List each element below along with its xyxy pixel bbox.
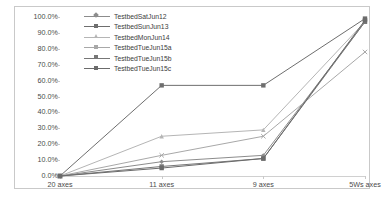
legend-item-TestbedMonJun14: TestbedMonJun14 bbox=[84, 32, 204, 43]
y-axis-tick-label: 50.0% bbox=[12, 93, 58, 101]
legend-swatch-icon bbox=[84, 32, 110, 42]
legend-item-label: TestbedSunJun13 bbox=[110, 23, 168, 30]
x-axis-tick-label: 5Ws axes bbox=[349, 180, 381, 189]
legend-marker bbox=[94, 55, 98, 59]
y-axis-tick-label: 30.0% bbox=[12, 124, 58, 132]
x-axis-tick-mark bbox=[162, 176, 163, 179]
legend-marker bbox=[94, 66, 98, 70]
legend-marker bbox=[93, 12, 99, 18]
series-data-point bbox=[58, 174, 62, 178]
x-axis-line bbox=[60, 176, 366, 177]
legend-item-label: TestbedMonJun14 bbox=[110, 34, 170, 41]
legend-item-TestbedTueJun15b: TestbedTueJun15b bbox=[84, 53, 204, 64]
legend-marker bbox=[94, 24, 98, 28]
legend-item-TestbedSunJun13: TestbedSunJun13 bbox=[84, 22, 204, 33]
legend-item-label: TestbedTueJun15b bbox=[110, 55, 172, 62]
y-axis-tick-label: 90.0% bbox=[12, 29, 58, 37]
series-data-point bbox=[261, 83, 265, 87]
legend-item-label: TestbedSatJun12 bbox=[110, 13, 167, 20]
x-axis-tick-mark bbox=[365, 176, 366, 179]
y-axis-tick-label: 70.0% bbox=[12, 61, 58, 69]
y-axis-tick-label: 80.0% bbox=[12, 45, 58, 53]
legend-swatch-icon bbox=[84, 43, 110, 53]
chart-container: 100.0%90.0%80.0%70.0%60.0%50.0%40.0%30.0… bbox=[0, 0, 382, 199]
series-data-point bbox=[363, 18, 367, 22]
legend-marker bbox=[94, 34, 98, 38]
x-axis-tick-label: 9 axes bbox=[253, 180, 274, 189]
legend-item-label: TestbedTueJun15a bbox=[110, 44, 172, 51]
y-axis-tick-label: 60.0% bbox=[12, 77, 58, 85]
y-axis-tick-label: 100.0% bbox=[12, 13, 58, 21]
y-axis-tick-label: 20.0% bbox=[12, 140, 58, 148]
legend-item-TestbedSatJun12: TestbedSatJun12 bbox=[84, 11, 204, 22]
y-axis-tick-label: 10.0% bbox=[12, 156, 58, 164]
legend-item-label: TestbedTueJun15c bbox=[110, 65, 171, 72]
y-axis-tick-labels: 100.0%90.0%80.0%70.0%60.0%50.0%40.0%30.0… bbox=[11, 0, 58, 199]
series-data-point bbox=[159, 166, 163, 170]
chart-legend: TestbedSatJun12TestbedSunJun13TestbedMon… bbox=[84, 11, 204, 74]
legend-swatch-icon bbox=[84, 64, 110, 74]
legend-swatch-icon bbox=[84, 53, 110, 63]
series-data-point bbox=[261, 156, 265, 160]
legend-marker bbox=[94, 45, 98, 49]
x-axis-tick-mark bbox=[263, 176, 264, 179]
legend-swatch-icon bbox=[84, 11, 110, 21]
legend-swatch-icon bbox=[84, 22, 110, 32]
y-axis-tick-label: 0.0% bbox=[12, 172, 58, 180]
x-axis-tick-label: 20 axes bbox=[47, 180, 72, 189]
series-data-point bbox=[159, 159, 163, 163]
legend-item-TestbedTueJun15c: TestbedTueJun15c bbox=[84, 64, 204, 75]
x-axis-tick-label: 11 axes bbox=[149, 180, 174, 189]
series-data-point bbox=[159, 83, 163, 87]
y-axis-tick-label: 40.0% bbox=[12, 108, 58, 116]
legend-item-TestbedTueJun15a: TestbedTueJun15a bbox=[84, 43, 204, 54]
